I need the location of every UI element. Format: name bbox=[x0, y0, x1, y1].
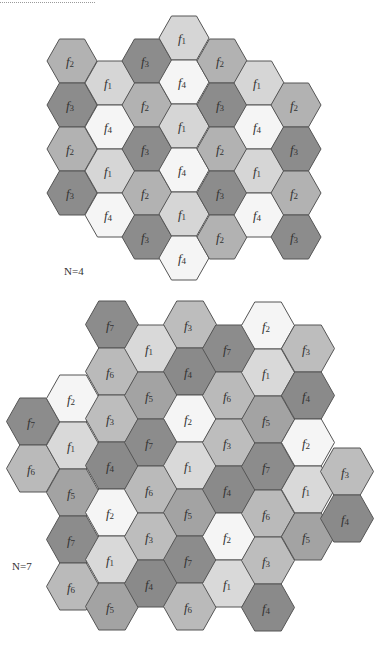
cluster-size-label-n4: N=4 bbox=[64, 265, 84, 277]
label-text: N=7 bbox=[12, 560, 32, 572]
reuse-pattern-n7: f7f6f2f1f5f7f6f7f6f3f4f2f1f5f1f5f7f6f3f4… bbox=[7, 301, 374, 631]
reuse-pattern-n4: f2f3f2f3f1f4f1f4f3f2f3f2f3f1f4f1f4f1f4f2… bbox=[47, 16, 321, 280]
label-text: N=4 bbox=[64, 265, 84, 277]
frequency-reuse-diagrams: f2f3f2f3f1f4f1f4f3f2f3f2f3f1f4f1f4f1f4f2… bbox=[0, 0, 381, 657]
cluster-size-label-n7: N=7 bbox=[12, 560, 32, 572]
